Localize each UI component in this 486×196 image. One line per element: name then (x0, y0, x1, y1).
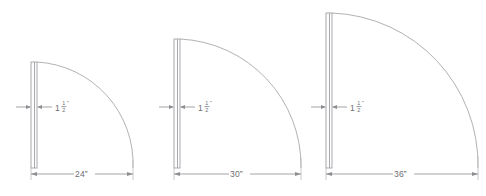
thickness-inch-mark-30: ” (210, 100, 212, 106)
thickness-arrowhead-right-30 (180, 105, 185, 109)
door-swing-diagram-set: 1 1 2 ” 24” (0, 0, 486, 196)
thickness-denominator-24: 2 (62, 107, 65, 113)
thickness-denominator-36: 2 (357, 107, 360, 113)
door-swing-figure-30: 1 1 2 ” 30” (159, 39, 301, 180)
width-arrowhead-left-24 (31, 172, 37, 176)
thickness-inch-mark-36: ” (362, 100, 364, 106)
thickness-arrowhead-left-36 (321, 105, 326, 109)
thickness-denominator-30: 2 (205, 107, 208, 113)
width-arrowhead-right-36 (472, 172, 478, 176)
thickness-arrowhead-right-36 (332, 105, 337, 109)
width-label-30: 30” (230, 169, 243, 179)
thickness-arrowhead-right-24 (37, 105, 42, 109)
thickness-arrowhead-left-30 (169, 105, 174, 109)
width-label-24: 24” (75, 169, 88, 179)
door-swing-figure-24: 1 1 2 ” 24” (16, 62, 133, 180)
technical-drawing-canvas: 1 1 2 ” 24” (0, 0, 486, 196)
door-swing-figure-36: 1 1 2 ” 36” (311, 13, 478, 180)
thickness-numerator-30: 1 (205, 100, 208, 106)
width-dimension-36: 36” (326, 169, 478, 179)
thickness-whole-number-24: 1 (55, 103, 60, 113)
thickness-whole-number-30: 1 (198, 103, 203, 113)
width-arrowhead-left-36 (326, 172, 332, 176)
thickness-inch-mark-24: ” (67, 100, 69, 106)
width-dimension-30: 30” (174, 169, 301, 179)
thickness-arrowhead-left-24 (26, 105, 31, 109)
thickness-dimension-30: 1 1 2 ” (159, 100, 212, 113)
thickness-numerator-36: 1 (357, 100, 360, 106)
thickness-dimension-36: 1 1 2 ” (311, 100, 364, 113)
thickness-whole-number-36: 1 (350, 103, 355, 113)
width-label-36: 36” (394, 169, 407, 179)
swing-arc-36 (332, 13, 478, 168)
thickness-numerator-24: 1 (62, 100, 65, 106)
width-arrowhead-right-30 (295, 172, 301, 176)
thickness-dimension-24: 1 1 2 ” (16, 100, 69, 113)
thickness-label-30: 1 1 2 ” (198, 100, 212, 113)
width-arrowhead-right-24 (127, 172, 133, 176)
thickness-label-36: 1 1 2 ” (350, 100, 364, 113)
width-arrowhead-left-30 (174, 172, 180, 176)
width-dimension-24: 24” (31, 169, 133, 179)
swing-arc-24 (37, 62, 133, 168)
thickness-label-24: 1 1 2 ” (55, 100, 69, 113)
